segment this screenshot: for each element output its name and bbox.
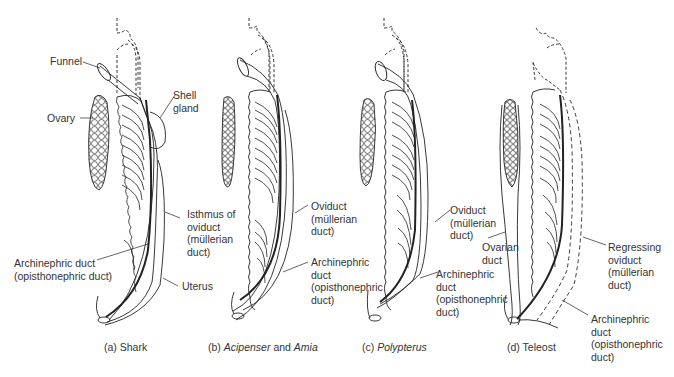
- label-archinephric-c-line1: Archinephric: [436, 268, 508, 281]
- label-regressing-line4: duct): [608, 279, 661, 292]
- label-archinephric-duct-c: Archinephric duct (opisthonephric duct): [436, 268, 508, 318]
- label-shell-gland-line1: Shell: [173, 89, 199, 102]
- label-archinephric-c-line3: (opisthonephric: [436, 293, 508, 306]
- ovary-shape: [360, 99, 376, 186]
- label-archinephric-duct-d: Archinephric duct (opisthonephric duct): [591, 313, 663, 363]
- caption-d-prefix: (d): [507, 341, 520, 353]
- label-archinephric-duct-b: Archinephric duct (opisthonephric duct): [311, 256, 383, 306]
- label-archinephric-d-line1: Archinephric: [591, 313, 663, 326]
- label-archinephric-b-line1: Archinephric: [311, 256, 383, 269]
- caption-b-genus-1: Acipenser: [224, 341, 271, 353]
- label-oviduct-b-line1: Oviduct: [311, 200, 357, 213]
- label-uterus: Uterus: [182, 280, 213, 293]
- caption-a-name: Shark: [120, 341, 147, 353]
- label-archinephric-b-line3: (opisthonephric: [311, 281, 383, 294]
- label-ovary: Ovary: [47, 112, 75, 125]
- label-archinephric-c-line4: duct): [436, 306, 508, 319]
- label-archinephric-a-line2: (opisthonephric duct): [14, 270, 112, 283]
- caption-c-prefix: (c): [362, 341, 374, 353]
- caption-b-prefix: (b): [208, 341, 221, 353]
- label-isthmus-line4: duct): [187, 246, 235, 259]
- ovary-shape: [89, 95, 109, 190]
- label-regressing-oviduct: Regressing oviduct (müllerian duct): [608, 241, 661, 291]
- label-regressing-line1: Regressing: [608, 241, 661, 254]
- label-shell-gland-line2: gland: [173, 102, 199, 115]
- label-archinephric-c-line2: duct: [436, 281, 508, 294]
- label-shell-gland: Shell gland: [173, 89, 199, 114]
- label-archinephric-a-line1: Archinephric duct: [14, 257, 112, 270]
- label-archinephric-d-line4: duct): [591, 351, 663, 364]
- label-funnel: Funnel: [50, 55, 82, 68]
- label-isthmus-of-oviduct: Isthmus of oviduct (müllerian duct): [187, 208, 235, 258]
- panel-b-acipenser-drawing: [222, 18, 308, 320]
- caption-d: (d) Teleost: [507, 341, 556, 353]
- label-ovarian-duct: Ovarian duct: [482, 241, 519, 266]
- label-oviduct-c-line2: (müllerian: [450, 217, 496, 230]
- label-isthmus-line3: (müllerian: [187, 233, 235, 246]
- label-archinephric-d-line2: duct: [591, 326, 663, 339]
- ovary-shape: [222, 97, 235, 187]
- label-isthmus-line1: Isthmus of: [187, 208, 235, 221]
- caption-a: (a) Shark: [104, 341, 147, 353]
- label-regressing-line2: oviduct: [608, 254, 661, 267]
- caption-d-name: Teleost: [523, 341, 556, 353]
- label-regressing-line3: (müllerian: [608, 266, 661, 279]
- caption-a-prefix: (a): [104, 341, 117, 353]
- label-ovarian-line1: Ovarian: [482, 241, 519, 254]
- figure-drawing: [0, 0, 674, 377]
- label-oviduct-c: Oviduct (müllerian duct): [450, 204, 496, 242]
- label-oviduct-b-line3: duct): [311, 225, 357, 238]
- label-oviduct-c-line3: duct): [450, 229, 496, 242]
- ovary-shape: [503, 100, 518, 188]
- label-oviduct-c-line1: Oviduct: [450, 204, 496, 217]
- label-oviduct-b-line2: (müllerian: [311, 213, 357, 226]
- caption-b-joiner: and: [273, 341, 291, 353]
- caption-b: (b) Acipenser and Amia: [208, 341, 318, 353]
- label-ovarian-line2: duct: [482, 254, 519, 267]
- label-archinephric-b-line2: duct: [311, 269, 383, 282]
- caption-c: (c) Polypterus: [362, 341, 427, 353]
- caption-b-genus-2: Amia: [294, 341, 318, 353]
- caption-c-name: Polypterus: [377, 341, 427, 353]
- label-archinephric-duct-a: Archinephric duct (opisthonephric duct): [14, 257, 112, 282]
- label-isthmus-line2: oviduct: [187, 221, 235, 234]
- label-oviduct-b: Oviduct (müllerian duct): [311, 200, 357, 238]
- label-archinephric-d-line3: (opisthonephric: [591, 338, 663, 351]
- label-archinephric-b-line4: duct): [311, 294, 383, 307]
